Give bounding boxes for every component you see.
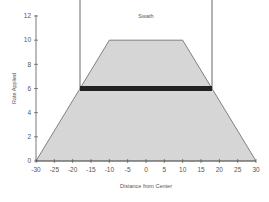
x-axis-title: Distance from Center bbox=[120, 183, 172, 189]
effective-rate-band bbox=[80, 86, 212, 91]
x-tick-label: -5 bbox=[125, 166, 131, 173]
y-tick-label: 12 bbox=[24, 12, 32, 19]
x-tick-label: 25 bbox=[234, 166, 242, 173]
y-tick-label: 10 bbox=[24, 36, 32, 43]
y-tick-label: 2 bbox=[27, 133, 31, 140]
plot-area bbox=[36, 0, 256, 161]
rate-profile-area bbox=[36, 40, 256, 161]
x-tick-label: 10 bbox=[179, 166, 187, 173]
swath-label: Swath bbox=[138, 13, 153, 19]
x-tick-label: -10 bbox=[105, 166, 115, 173]
y-axis-title: Rate Applied bbox=[11, 73, 17, 104]
chart-canvas: 024681012 -30-25-20-15-10-5051015202530 … bbox=[0, 0, 269, 202]
x-tick-label: -25 bbox=[50, 166, 60, 173]
x-tick-label: 5 bbox=[163, 166, 167, 173]
x-tick-label: -30 bbox=[31, 166, 41, 173]
x-tick-label: 15 bbox=[197, 166, 205, 173]
x-tick-label: -20 bbox=[68, 166, 78, 173]
rate-applied-chart: 024681012 -30-25-20-15-10-5051015202530 … bbox=[0, 0, 269, 202]
y-tick-label: 6 bbox=[27, 85, 31, 92]
y-tick-label: 4 bbox=[27, 109, 31, 116]
x-tick-label: 30 bbox=[252, 166, 260, 173]
x-axis: -30-25-20-15-10-5051015202530 bbox=[31, 159, 260, 173]
x-tick-label: 20 bbox=[216, 166, 224, 173]
x-tick-label: 0 bbox=[144, 166, 148, 173]
y-tick-label: 8 bbox=[27, 61, 31, 68]
y-tick-label: 0 bbox=[27, 157, 31, 164]
y-axis: 024681012 bbox=[24, 12, 38, 164]
x-tick-label: -15 bbox=[86, 166, 96, 173]
